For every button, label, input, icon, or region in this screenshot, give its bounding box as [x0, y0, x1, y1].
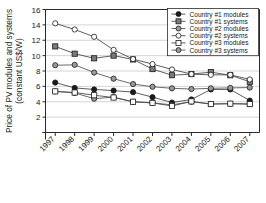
- data-point: [169, 103, 174, 108]
- x-tick-label: 1997: [38, 134, 57, 153]
- data-point: [111, 47, 116, 52]
- data-point: [72, 62, 77, 67]
- y-axis-title-line1: Price of PV modules and systems: [4, 9, 14, 133]
- data-point: [150, 84, 155, 89]
- y-tick-label: 4: [36, 98, 41, 107]
- data-point: [169, 67, 174, 72]
- data-point: [92, 56, 97, 61]
- data-point: [189, 71, 194, 76]
- data-point: [228, 85, 233, 90]
- x-tick-label: 2006: [213, 134, 232, 153]
- x-axis-ticks: 1997199819992000200120022003200420052006…: [38, 133, 252, 154]
- data-point: [92, 93, 97, 98]
- data-point: [176, 33, 181, 38]
- data-point: [150, 61, 155, 66]
- x-tick-label: 2002: [135, 134, 154, 153]
- data-point: [176, 26, 181, 31]
- y-tick-label: 8: [36, 67, 41, 76]
- y-axis-title: Price of PV modules and systems(constant…: [4, 9, 24, 133]
- data-point: [169, 73, 174, 78]
- x-tick-label: 2007: [232, 134, 251, 153]
- y-tick-label: 16: [32, 6, 41, 15]
- data-point: [92, 70, 97, 75]
- data-point: [189, 99, 194, 104]
- data-point: [247, 77, 252, 82]
- data-point: [176, 40, 181, 45]
- data-point: [176, 12, 181, 17]
- x-tick-label: 2004: [174, 134, 193, 153]
- data-point: [208, 86, 213, 91]
- data-point: [53, 80, 58, 85]
- data-point: [53, 89, 58, 94]
- data-point: [130, 81, 135, 86]
- data-point: [208, 72, 213, 77]
- data-point: [130, 99, 135, 104]
- data-point: [176, 48, 181, 53]
- data-point: [130, 56, 135, 61]
- y-tick-label: 2: [36, 113, 41, 122]
- x-tick-label: 2001: [116, 134, 135, 153]
- data-point: [72, 51, 77, 56]
- data-point: [169, 86, 174, 91]
- data-point: [92, 87, 97, 92]
- data-point: [111, 95, 116, 100]
- data-point: [53, 63, 58, 68]
- y-tick-label: 10: [32, 52, 41, 61]
- data-point: [150, 66, 155, 71]
- y-tick-label: 6: [36, 82, 41, 91]
- y-axis-title-line2: (constant US$/W): [14, 38, 24, 104]
- data-point: [176, 19, 181, 24]
- x-tick-label: 2000: [96, 134, 115, 153]
- data-point: [189, 86, 194, 91]
- data-point: [53, 21, 58, 26]
- data-point: [208, 101, 213, 106]
- data-point: [111, 53, 116, 58]
- data-point: [150, 100, 155, 105]
- data-point: [111, 76, 116, 81]
- x-tick-label: 1998: [57, 134, 76, 153]
- chart-container: 246810121416 199719981999200020012002200…: [0, 0, 266, 203]
- y-tick-label: 14: [32, 21, 41, 30]
- data-point: [130, 90, 135, 95]
- chart-legend[interactable]: Country #1 modulesCountry #1 systemsCoun…: [168, 9, 259, 56]
- data-point: [53, 44, 58, 49]
- data-point: [111, 88, 116, 93]
- data-point: [72, 27, 77, 32]
- data-point: [247, 101, 252, 106]
- x-tick-label: 2003: [154, 134, 173, 153]
- data-point: [247, 85, 252, 90]
- x-tick-label: 1999: [77, 134, 96, 153]
- data-point: [228, 101, 233, 106]
- data-point: [72, 90, 77, 95]
- y-tick-label: 12: [32, 36, 41, 45]
- y-axis-ticks: 246810121416: [32, 6, 46, 133]
- data-point: [150, 95, 155, 100]
- line-chart: 246810121416 199719981999200020012002200…: [0, 0, 266, 203]
- data-point: [92, 34, 97, 39]
- data-point: [228, 72, 233, 77]
- legend-label: Country #3 systems: [190, 47, 249, 55]
- x-tick-label: 2005: [193, 134, 212, 153]
